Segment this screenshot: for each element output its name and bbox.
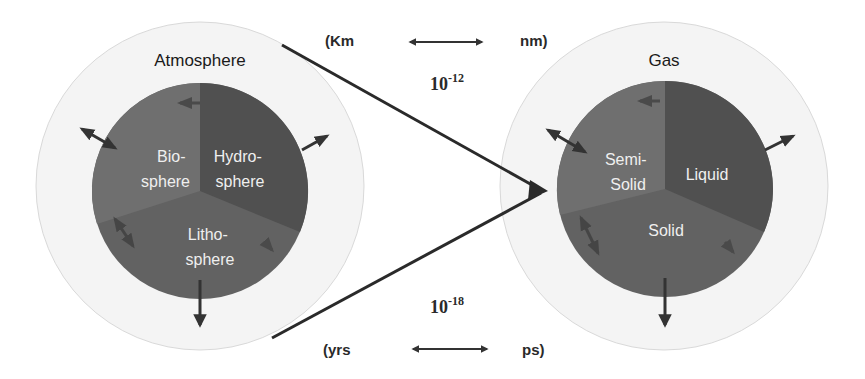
earth-system-diagram: Atmosphere Bio- sphere Hydro- sphere Lit…	[36, 22, 364, 350]
scale-bottom-factor: 10-18	[430, 294, 464, 317]
matter-core	[557, 81, 773, 297]
scale-top-factor: 10-12	[430, 71, 464, 94]
material-system-diagram: Gas Semi- Solid Liquid Solid	[500, 22, 828, 350]
time-scale: 10-18 (yrs ps)	[323, 294, 545, 358]
scale-top-right-label: nm)	[520, 32, 548, 49]
atmosphere-label: Atmosphere	[154, 51, 246, 70]
liquid-label: Liquid	[686, 166, 729, 183]
length-scale: (Km nm) 10-12	[325, 32, 548, 94]
diagram-canvas: Atmosphere Bio- sphere Hydro- sphere Lit…	[0, 0, 865, 379]
scale-bottom-left-label: (yrs	[323, 341, 351, 358]
solid-label: Solid	[648, 222, 684, 239]
gas-label: Gas	[648, 51, 679, 70]
scale-bottom-right-label: ps)	[522, 341, 545, 358]
scale-top-left-label: (Km	[325, 32, 354, 49]
